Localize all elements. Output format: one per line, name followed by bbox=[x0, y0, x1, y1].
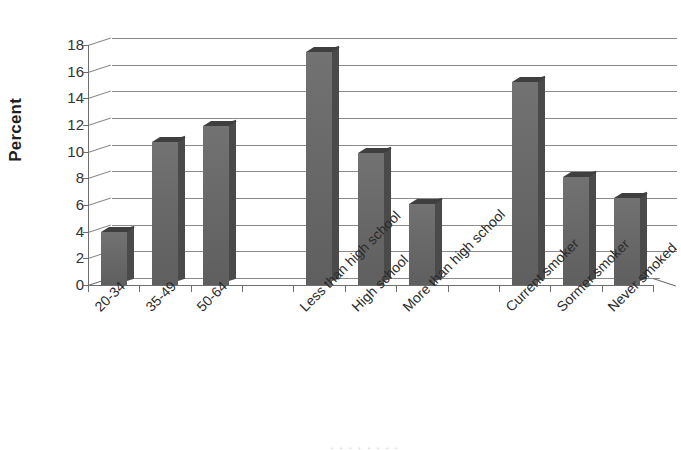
plot-area: 181614121086420 20-3435-4950-64Less than… bbox=[0, 0, 681, 450]
y-axis-tick-label: 0 bbox=[50, 277, 84, 292]
x-axis-tick bbox=[88, 285, 89, 292]
y-axis-tick-label: 8 bbox=[50, 170, 84, 185]
bar-front-face bbox=[306, 52, 332, 285]
bar-side-face bbox=[332, 45, 339, 281]
floor-right-edge bbox=[653, 278, 676, 286]
gridline-riser bbox=[88, 38, 111, 46]
bar bbox=[101, 232, 127, 285]
x-axis-tick bbox=[499, 285, 500, 292]
cropped-caption-strip: . . . . . . . . bbox=[0, 442, 681, 450]
gridline-riser bbox=[88, 91, 111, 99]
x-axis-tick bbox=[448, 285, 449, 292]
bar bbox=[306, 52, 332, 285]
y-axis-tick-label: 10 bbox=[50, 144, 84, 159]
x-axis-tick bbox=[345, 285, 346, 292]
gridline-horizontal bbox=[112, 91, 677, 92]
bar bbox=[203, 126, 229, 285]
bar-side-face bbox=[229, 120, 236, 281]
gridline-riser bbox=[88, 198, 111, 206]
x-axis-tick bbox=[396, 285, 397, 292]
gridline-horizontal bbox=[112, 118, 677, 119]
y-axis-line bbox=[88, 45, 89, 286]
x-axis-tick bbox=[602, 285, 603, 292]
gridline-riser bbox=[88, 171, 111, 179]
bar bbox=[152, 142, 178, 285]
y-axis-tick-label: 14 bbox=[50, 90, 84, 105]
y-axis-tick-label: 12 bbox=[50, 117, 84, 132]
bar-chart: Percent 181614121086420 20-3435-4950-64L… bbox=[0, 0, 681, 450]
cropped-caption-text: . . . . . . . . bbox=[330, 442, 681, 450]
y-axis-tick-label: 18 bbox=[50, 37, 84, 52]
gridline-riser bbox=[88, 118, 111, 126]
bar-front-face bbox=[563, 177, 589, 285]
y-axis-tick-label: 2 bbox=[50, 250, 84, 265]
gridline-riser bbox=[88, 64, 111, 72]
bar-front-face bbox=[101, 232, 127, 285]
x-axis-tick bbox=[139, 285, 140, 292]
bar bbox=[563, 177, 589, 285]
y-axis-tick-label: 4 bbox=[50, 224, 84, 239]
gridline-horizontal bbox=[112, 65, 677, 66]
x-axis-tick bbox=[242, 285, 243, 292]
bar-side-face bbox=[178, 136, 185, 281]
x-axis-tick bbox=[293, 285, 294, 292]
bar bbox=[512, 82, 538, 285]
gridline-horizontal bbox=[112, 38, 677, 39]
gridline-horizontal bbox=[112, 145, 677, 146]
y-axis-tick-label: 6 bbox=[50, 197, 84, 212]
y-axis-tick-label: 16 bbox=[50, 64, 84, 79]
x-axis-tick bbox=[550, 285, 551, 292]
x-axis-tick bbox=[653, 285, 654, 292]
bar-side-face bbox=[538, 76, 545, 281]
x-axis-tick bbox=[191, 285, 192, 292]
bar-front-face bbox=[152, 142, 178, 285]
y-axis-labels: 181614121086420 bbox=[50, 0, 84, 450]
gridline-riser bbox=[88, 144, 111, 152]
bar-front-face bbox=[512, 82, 538, 285]
bar-front-face bbox=[203, 126, 229, 285]
bar-side-face bbox=[127, 225, 134, 281]
